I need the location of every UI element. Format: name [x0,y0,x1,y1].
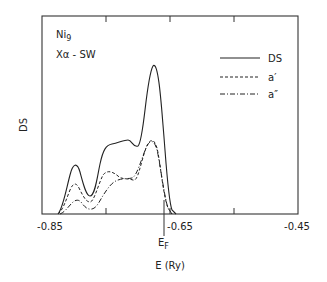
ds-curve [58,65,176,214]
top-ticks [106,16,234,22]
system-label: Ni9 [56,29,71,43]
a-double-prime-curve [60,141,172,214]
a-prime-curve [58,141,172,215]
method-label: Xα - SW [56,49,96,60]
x-tick-label-left: -0.85 [37,221,63,232]
legend-a-prime-label: a′ [268,72,277,83]
y-axis-label: DS [18,118,29,132]
legend-a-double-prime-label: a″ [268,89,278,100]
legend-ds-label: DS [268,53,282,64]
plot-frame [42,16,298,214]
dos-chart: Ni9 Xα - SW DS a′ a″ DS -0.85 -0.65 -0.4… [0,0,327,282]
x-tick-label-right: -0.45 [284,221,310,232]
legend: DS a′ a″ [220,53,282,100]
fermi-label: EF [158,237,169,251]
x-axis-label: E (Ry) [155,260,185,271]
x-tick-label-mid: -0.65 [167,221,193,232]
